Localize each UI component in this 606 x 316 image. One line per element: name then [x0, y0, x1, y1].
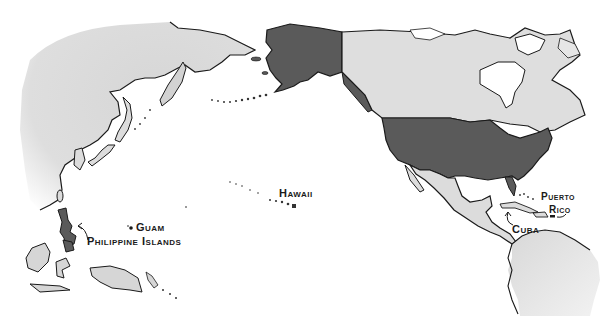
puerto-rico: [550, 215, 555, 218]
philippine-islands: [58, 208, 76, 246]
borneo: [26, 243, 50, 272]
kuril-islands: [134, 109, 151, 130]
canada: [342, 28, 585, 132]
micronesia-dots: [162, 289, 177, 299]
taiwan: [57, 190, 63, 202]
alaska: [266, 24, 342, 92]
new-guinea: [90, 266, 142, 292]
philippine-islands-south: [63, 240, 74, 252]
cuba: [500, 202, 538, 213]
map-canvas: [0, 0, 606, 316]
korea: [74, 148, 85, 170]
aleutian-islands: [211, 94, 267, 103]
label-puerto-rico-line1: Puerto: [541, 192, 575, 202]
guam-marker: [129, 226, 133, 230]
hispaniola: [533, 212, 548, 217]
asia-landmass: [20, 22, 255, 210]
bahamas: [519, 193, 534, 200]
solomon-islands: [146, 272, 158, 288]
java: [30, 284, 70, 292]
label-hawaii: Hawaii: [279, 188, 313, 199]
florida: [505, 177, 516, 196]
japan-south: [88, 145, 115, 166]
label-puerto-rico-line2: Rico: [549, 205, 571, 215]
sulawesi: [56, 258, 70, 278]
label-guam: Guam: [136, 222, 165, 233]
label-philippine-islands: Philippine Islands: [87, 236, 181, 247]
south-america: [508, 230, 600, 316]
label-cuba: Cuba: [512, 224, 539, 235]
